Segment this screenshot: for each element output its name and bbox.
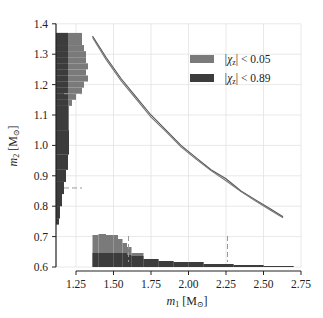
histogram-bar-dark <box>56 75 68 81</box>
histogram-bar-dark <box>93 253 99 267</box>
histogram-bar-dark <box>56 39 68 45</box>
histogram-bar-dark <box>56 194 62 206</box>
histogram-bar-dark <box>56 182 64 194</box>
histogram-bar-dark <box>56 155 68 170</box>
histogram-bar-dark <box>56 106 68 130</box>
histogram-bar-dark <box>132 256 144 267</box>
y-axis-label: m2 [M⊙] <box>6 125 21 166</box>
histogram-bar-dark <box>56 82 68 88</box>
legend-label: |χz| < 0.05 <box>224 53 271 67</box>
y-tick-label: 0.7 <box>34 231 49 243</box>
mass-plane-chart: 1.41.31.21.11.00.90.80.70.61.251.501.752… <box>0 0 323 318</box>
x-tick-label: 2.50 <box>253 278 273 290</box>
marginal-histogram-m2 <box>56 33 88 225</box>
y-tick-label: 0.8 <box>34 200 49 212</box>
histogram-bar-dark <box>56 51 68 57</box>
legend-swatch <box>190 55 214 63</box>
histogram-bar-dark <box>56 57 68 63</box>
histogram-bar-dark <box>56 170 66 182</box>
y-tick-label: 0.6 <box>34 261 49 273</box>
histogram-bar-dark <box>118 253 123 267</box>
histogram-bar-dark <box>264 266 294 267</box>
histogram-bar-dark <box>174 262 189 267</box>
histogram-bar-dark <box>56 63 68 69</box>
histogram-bar-dark <box>106 253 114 267</box>
y-tick-label: 1.1 <box>34 109 49 121</box>
histogram-bar-dark <box>56 69 68 75</box>
histogram-bar-dark <box>114 253 119 267</box>
y-tick-label: 1.4 <box>34 18 49 30</box>
y-tick-label: 0.9 <box>34 170 49 182</box>
legend-swatch <box>190 74 214 82</box>
histogram-bar-dark <box>99 253 107 267</box>
histogram-bar-dark <box>204 264 234 267</box>
histogram-bar-dark <box>56 130 69 154</box>
histogram-bar-dark <box>56 100 68 106</box>
y-tick-label: 1.3 <box>34 48 49 60</box>
histogram-bar-dark <box>127 255 132 267</box>
histogram-bar-dark <box>123 253 128 267</box>
x-tick-label: 2.25 <box>216 278 236 290</box>
histogram-bar-dark <box>56 33 68 39</box>
histogram-bar-dark <box>144 259 159 267</box>
histogram-bar-dark <box>189 262 204 267</box>
y-tick-label: 1.0 <box>34 139 49 151</box>
x-axis-label: m1 [M⊙] <box>166 294 207 309</box>
legend: |χz| < 0.05|χz| < 0.89 <box>190 53 271 86</box>
histogram-bar-dark <box>234 265 264 267</box>
x-tick-label: 1.25 <box>66 278 86 290</box>
x-tick-label: 1.75 <box>141 278 161 290</box>
histogram-bar-dark <box>56 45 68 51</box>
x-tick-label: 2.75 <box>291 278 311 290</box>
histogram-bar-dark <box>56 94 68 100</box>
legend-label: |χz| < 0.89 <box>224 72 271 86</box>
histogram-bar-dark <box>56 88 68 94</box>
x-tick-label: 2.00 <box>178 278 198 290</box>
histogram-bar-dark <box>159 261 174 267</box>
x-tick-label: 1.50 <box>103 278 123 290</box>
y-tick-label: 1.2 <box>34 79 49 91</box>
